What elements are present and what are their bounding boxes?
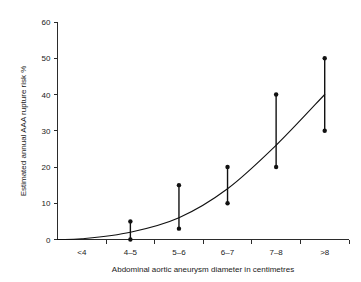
y-axis-tick-label: 50: [42, 54, 51, 63]
error-bar-endpoint: [274, 165, 278, 169]
error-bar-endpoint: [225, 165, 229, 169]
y-axis-tick-label: 20: [42, 163, 51, 172]
error-bar-endpoint: [177, 183, 181, 187]
y-axis-title: Estimated annual AAA rupture risk %: [19, 66, 28, 197]
x-axis-tick-label: 6–7: [221, 248, 235, 257]
x-axis-tick-label: <4: [77, 248, 87, 257]
error-bar-endpoint: [225, 201, 229, 205]
x-axis-tick-label: 4–5: [124, 248, 138, 257]
x-axis-tick-label: 7–8: [269, 248, 283, 257]
x-axis-title: Abdominal aortic aneurysm diameter in ce…: [112, 265, 294, 274]
error-bar-endpoint: [177, 226, 181, 230]
rupture-risk-chart: 0102030405060 <44–55–66–77–8>8 Estimated…: [0, 0, 361, 282]
error-bar-endpoint: [323, 56, 327, 60]
y-axis-tick-label: 40: [42, 91, 51, 100]
error-bar-endpoint: [274, 92, 278, 96]
y-axis-tick-label: 0: [46, 236, 51, 245]
error-bar-endpoint: [323, 129, 327, 133]
x-axis-tick-label: 5–6: [172, 248, 186, 257]
y-axis-tick-label: 30: [42, 127, 51, 136]
error-bar-endpoint: [128, 237, 132, 241]
y-axis-tick-label: 10: [42, 199, 51, 208]
chart-figure: 0102030405060 <44–55–66–77–8>8 Estimated…: [0, 0, 361, 282]
error-bar-endpoint: [128, 219, 132, 223]
x-axis-tick-label: >8: [320, 248, 330, 257]
y-axis-tick-label: 60: [42, 18, 51, 27]
